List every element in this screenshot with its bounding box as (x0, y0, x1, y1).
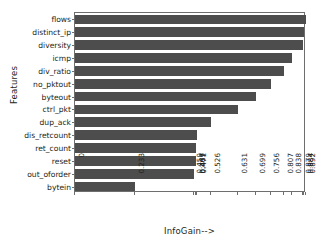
bar-out_oforder (75, 169, 194, 179)
bar-dis_retcount (75, 130, 197, 140)
x-tick-label-0: 0 (77, 153, 86, 193)
x-tick-mark (210, 192, 211, 195)
x-axis-title: InfoGain--> (74, 226, 305, 236)
y-tick-label-reset: reset (52, 156, 71, 165)
x-tick-label-0.471: 0.471 (199, 153, 208, 193)
x-tick-mark (255, 192, 256, 195)
bar-chart-figure: Features flowsdistinct_ipdiversityicmpdi… (0, 0, 324, 241)
bar-row: out_oforder (75, 167, 304, 180)
bar-flows (75, 15, 306, 25)
y-tick-label-byteout: byteout (42, 92, 71, 101)
bar-icmp (75, 53, 292, 63)
y-tick-mark (72, 97, 75, 98)
y-tick-mark (72, 84, 75, 85)
bar-row: diversity (75, 39, 304, 52)
x-tick-mark (291, 192, 292, 195)
y-tick-label-dup_ack: dup_ack (40, 118, 71, 127)
bar-distinct_ip (75, 27, 304, 37)
bar-dup_ack (75, 117, 211, 127)
y-tick-label-diversity: diversity (38, 41, 71, 50)
bar-row: icmp (75, 52, 304, 65)
bar-row: reset (75, 154, 304, 167)
y-tick-label-icmp: icmp (52, 53, 71, 62)
y-tick-mark (72, 187, 75, 188)
y-tick-mark (72, 135, 75, 136)
bar-row: ret_count (75, 142, 304, 155)
bar-row: dup_ack (75, 116, 304, 129)
y-tick-mark (72, 122, 75, 123)
x-tick-label-0.699: 0.699 (258, 153, 267, 193)
y-axis-title: Features (9, 40, 19, 130)
bar-row: dis_retcount (75, 129, 304, 142)
y-tick-mark (72, 148, 75, 149)
y-tick-label-out_oforder: out_oforder (27, 169, 71, 178)
bar-byteout (75, 92, 256, 102)
bar-row: div_ratio (75, 64, 304, 77)
x-tick-mark (270, 192, 271, 195)
bar-ret_count (75, 143, 196, 153)
bar-row: byteout (75, 90, 304, 103)
plot-area: flowsdistinct_ipdiversityicmpdiv_rationo… (74, 12, 305, 192)
x-tick-mark (193, 192, 194, 195)
bar-no_pktout (75, 79, 271, 89)
y-tick-mark (72, 45, 75, 46)
y-tick-mark (72, 71, 75, 72)
bar-row: distinct_ip (75, 26, 304, 39)
x-tick-label-0.233: 0.233 (137, 153, 146, 193)
y-tick-label-ret_count: ret_count (35, 143, 71, 152)
x-tick-label-0.892: 0.892 (308, 153, 317, 193)
y-tick-mark (72, 174, 75, 175)
y-tick-label-dis_retcount: dis_retcount (24, 131, 71, 140)
bar-diversity (75, 40, 303, 50)
bar-row: flows (75, 13, 304, 26)
bar-row: ctrl_pkt (75, 103, 304, 116)
y-tick-label-div_ratio: div_ratio (38, 66, 71, 75)
x-tick-mark (303, 192, 304, 195)
y-tick-label-no_pktout: no_pktout (33, 79, 71, 88)
bar-ctrl_pkt (75, 105, 238, 115)
bar-row: no_pktout (75, 77, 304, 90)
y-tick-mark (72, 58, 75, 59)
y-tick-label-flows: flows (51, 15, 71, 24)
x-tick-label-0.526: 0.526 (213, 153, 222, 193)
y-tick-label-ctrl_pkt: ctrl_pkt (43, 105, 71, 114)
y-tick-mark (72, 109, 75, 110)
x-tick-mark (134, 192, 135, 195)
x-tick-label-0.838: 0.838 (294, 153, 303, 193)
y-tick-mark (72, 32, 75, 33)
bar-reset (75, 156, 196, 166)
y-tick-mark (72, 19, 75, 20)
x-tick-mark (196, 192, 197, 195)
x-tick-label-0.756: 0.756 (272, 153, 281, 193)
x-tick-mark (305, 192, 306, 195)
y-tick-label-distinct_ip: distinct_ip (32, 28, 71, 37)
x-tick-label-0.631: 0.631 (240, 153, 249, 193)
x-tick-mark (237, 192, 238, 195)
y-tick-label-bytein: bytein (47, 182, 71, 191)
x-tick-mark (74, 192, 75, 195)
x-tick-mark (283, 192, 284, 195)
y-tick-mark (72, 161, 75, 162)
bar-div_ratio (75, 66, 284, 76)
